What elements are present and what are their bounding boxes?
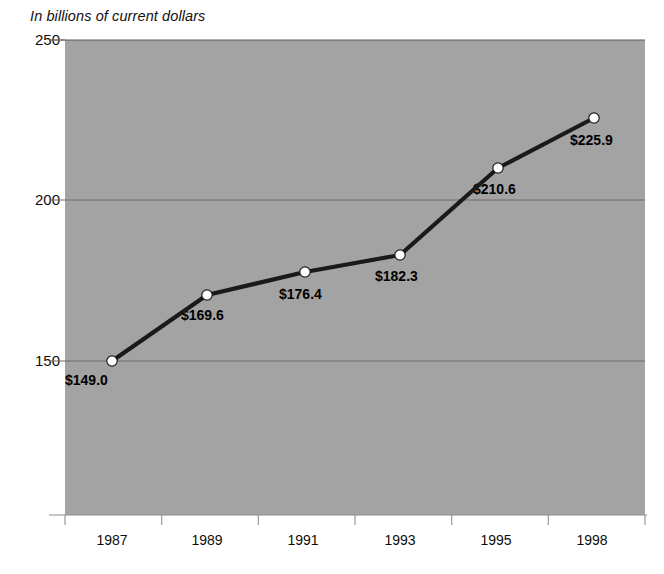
data-point-marker-1991 (300, 267, 310, 277)
gridlines (65, 200, 645, 361)
data-point-marker-1993 (395, 250, 405, 260)
x-tick-marks (65, 515, 645, 525)
data-point-marker-1995 (493, 163, 503, 173)
data-point-marker-1989 (202, 290, 212, 300)
axis-lines (49, 40, 647, 515)
data-point-markers (107, 113, 599, 366)
data-point-marker-1987 (107, 356, 117, 366)
line-chart: In billions of current dollars 250 200 1… (0, 0, 664, 574)
data-point-marker-1998 (589, 113, 599, 123)
y-tick-marks (49, 40, 65, 361)
chart-graphics (0, 0, 664, 574)
series-line (112, 118, 594, 361)
